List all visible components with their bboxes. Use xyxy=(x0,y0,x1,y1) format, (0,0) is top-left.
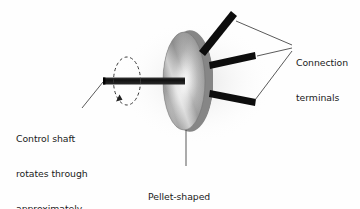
control-shaft-end-cap xyxy=(103,78,105,85)
leader-line-control-shaft xyxy=(82,82,103,108)
technical-diagram: Control shaft rotates through approximat… xyxy=(0,0,360,209)
pellet-housing-label: Pellet-shaped housing xyxy=(148,168,210,209)
connection-terminals-label-line-1: Connection xyxy=(296,57,348,69)
control-shaft xyxy=(103,78,185,85)
connection-terminals-label-line-2: terminals xyxy=(296,92,348,104)
control-shaft-bar xyxy=(103,78,185,85)
pellet-housing-label-line-1: Pellet-shaped xyxy=(148,191,210,203)
control-shaft-label-line-3: approximately xyxy=(16,203,88,209)
connection-terminals-label: Connection terminals xyxy=(296,34,348,127)
control-shaft-label-line-2: rotates through xyxy=(16,168,88,180)
control-shaft-label: Control shaft rotates through approximat… xyxy=(16,110,88,209)
control-shaft-label-line-1: Control shaft xyxy=(16,133,88,145)
